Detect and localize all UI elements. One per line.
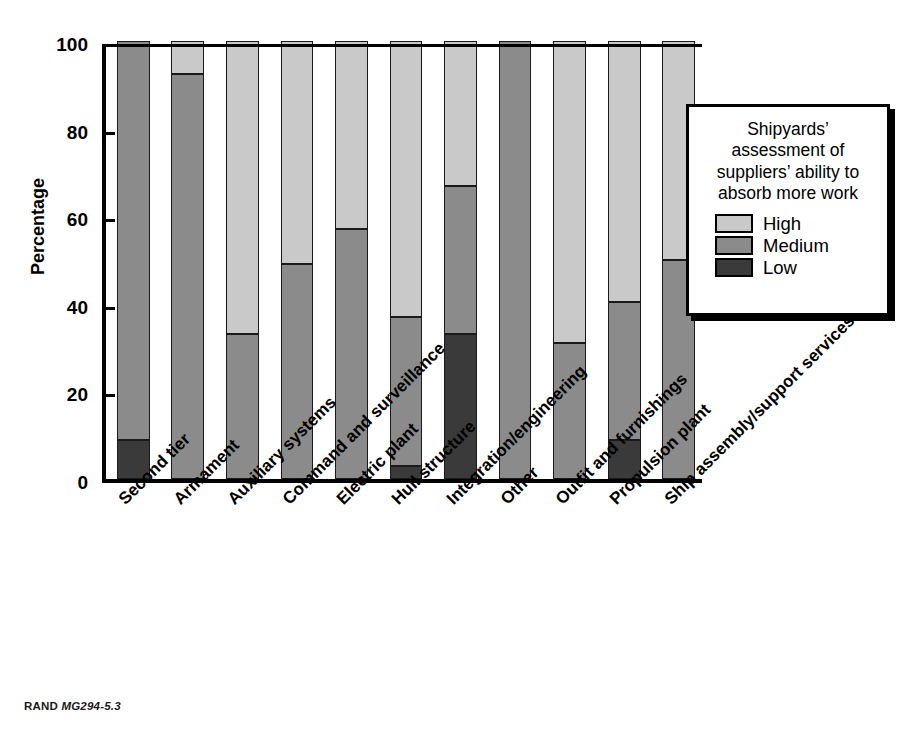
legend-item: Medium: [715, 236, 887, 255]
bar-stack: [553, 41, 586, 479]
y-axis-tick-label: 20: [28, 385, 88, 404]
footer-document-id: MG294-5.3: [61, 700, 120, 712]
bar-segment-high: [608, 41, 641, 302]
bars-layer: [106, 47, 702, 479]
legend-items: HighMediumLow: [715, 214, 887, 277]
bar-segment-high: [553, 41, 586, 343]
bar-segment-high: [281, 41, 314, 264]
bar-stack: [117, 41, 150, 479]
legend-swatch-low: [715, 258, 753, 277]
plot-area: [102, 45, 702, 483]
bar-stack: [226, 41, 259, 479]
bar-segment-medium: [117, 41, 150, 440]
legend-item: High: [715, 214, 887, 233]
legend-box: Shipyards’ assessment of suppliers’ abil…: [686, 104, 890, 316]
y-axis-tick-mark: [103, 132, 115, 135]
legend-label: Medium: [763, 237, 829, 256]
bar-segment-high: [444, 41, 477, 186]
legend-label: Low: [763, 259, 797, 278]
y-axis-tick-mark: [103, 307, 115, 310]
cropped-title-remnant: [130, 0, 590, 7]
y-axis-tick-label: 0: [28, 473, 88, 492]
bar-stack: [444, 41, 477, 479]
legend-title: Shipyards’ assessment of suppliers’ abil…: [699, 119, 877, 204]
plot-top-border: [102, 44, 702, 47]
legend-swatch-high: [715, 214, 753, 233]
footer-source: RAND: [24, 700, 58, 712]
bar-segment-high: [390, 41, 423, 317]
bar-segment-high: [335, 41, 368, 229]
bar-segment-high: [226, 41, 259, 334]
legend-label: High: [763, 215, 801, 234]
y-axis-title: Percentage: [28, 137, 49, 317]
bar-segment-medium: [553, 343, 586, 479]
figure-footer: RAND MG294-5.3: [24, 700, 121, 712]
legend-item: Low: [715, 258, 887, 277]
figure-root: 020406080100 Percentage Second tierArmam…: [0, 0, 902, 736]
y-axis-tick-mark: [103, 219, 115, 222]
y-axis-tick-mark: [103, 394, 115, 397]
bar-segment-medium: [444, 186, 477, 335]
legend-swatch-medium: [715, 236, 753, 255]
bar-stack: [390, 41, 423, 479]
bar-segment-medium: [171, 74, 204, 479]
y-axis-tick-label: 100: [28, 35, 88, 54]
bar-stack: [171, 41, 204, 479]
